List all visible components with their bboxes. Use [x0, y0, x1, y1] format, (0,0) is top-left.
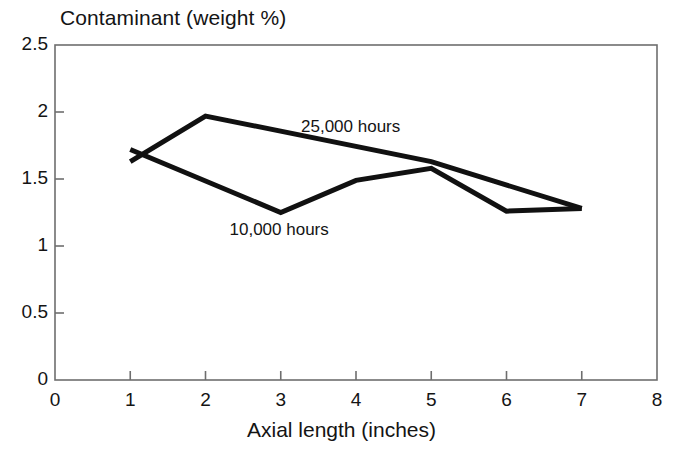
x-axis-title: Axial length (inches) — [0, 418, 683, 442]
x-tick-label: 7 — [562, 389, 602, 411]
x-tick-label: 0 — [35, 389, 75, 411]
series-annotation: 25,000 hours — [301, 117, 400, 137]
y-tick-label: 0 — [37, 368, 48, 390]
plot-area — [0, 0, 683, 454]
series-annotation: 10,000 hours — [230, 220, 329, 240]
x-tick-label: 3 — [261, 389, 301, 411]
y-tick-label: 2 — [37, 100, 48, 122]
x-tick-label: 6 — [487, 389, 527, 411]
y-tick-label: 1.5 — [22, 167, 48, 189]
y-tick-label: 1 — [37, 234, 48, 256]
x-tick-label: 4 — [336, 389, 376, 411]
x-tick-label: 8 — [637, 389, 677, 411]
chart-container: Contaminant (weight %) 00.511.522.5 0123… — [0, 0, 683, 454]
y-tick-label: 0.5 — [22, 301, 48, 323]
x-tick-label: 2 — [186, 389, 226, 411]
x-tick-label: 5 — [411, 389, 451, 411]
axis-frame — [55, 45, 657, 380]
y-tick-label: 2.5 — [22, 33, 48, 55]
x-tick-label: 1 — [110, 389, 150, 411]
series-line-2 — [130, 150, 582, 213]
